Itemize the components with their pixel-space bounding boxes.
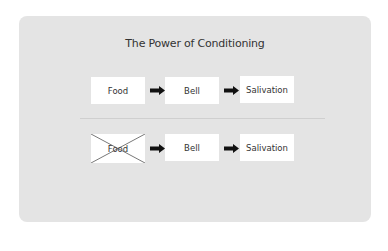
row1-salivation-label: Salivation <box>246 85 288 95</box>
arrow-right-icon <box>224 86 239 95</box>
row2-bell-label: Bell <box>184 143 200 153</box>
arrow-right-icon <box>150 86 165 95</box>
cross-out-icon <box>91 134 145 163</box>
diagram-title: The Power of Conditioning <box>19 37 371 50</box>
arrow-right-icon <box>150 144 165 153</box>
row2-salivation-box: Salivation <box>240 134 294 161</box>
row1-food-label: Food <box>108 86 128 96</box>
row1-food-box: Food <box>91 77 145 104</box>
row2-food-box-crossed: Food <box>91 134 145 163</box>
row2-salivation-label: Salivation <box>246 143 288 153</box>
diagram-panel: The Power of Conditioning Food Bell Sali… <box>19 16 371 222</box>
section-divider <box>80 118 325 119</box>
arrow-right-icon <box>224 144 239 153</box>
row1-bell-box: Bell <box>165 77 219 104</box>
row1-bell-label: Bell <box>184 86 200 96</box>
row1-salivation-box: Salivation <box>240 76 294 103</box>
row2-bell-box: Bell <box>165 134 219 161</box>
